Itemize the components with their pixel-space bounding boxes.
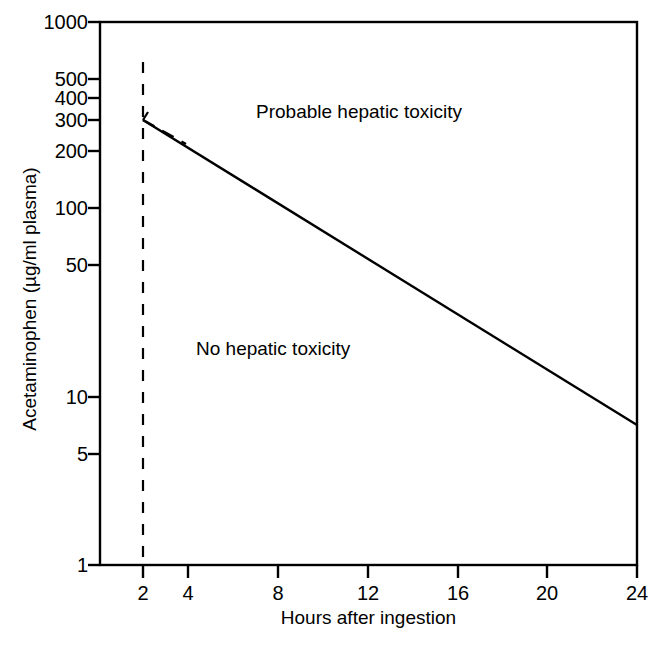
x-tick-label-12: 12 [357,583,379,603]
x-tick-label-4: 4 [182,583,193,603]
annotation-probable-hepatic-toxicity: Probable hepatic toxicity [256,101,462,123]
x-tick-labels: 2 4 8 12 16 20 24 [0,0,663,646]
x-axis-title: Hours after ingestion [100,607,637,629]
x-tick-label-8: 8 [272,583,283,603]
annotation-no-hepatic-toxicity: No hepatic toxicity [196,338,350,360]
x-tick-label-20: 20 [536,583,558,603]
x-tick-label-16: 16 [447,583,469,603]
x-tick-label-24: 24 [626,583,648,603]
x-tick-label-2: 2 [137,583,148,603]
y-axis-title: Acetaminophen (µg/ml plasma) [19,119,41,479]
chart-container: 1000 500 400 300 200 100 50 10 5 1 2 4 8… [0,0,663,646]
